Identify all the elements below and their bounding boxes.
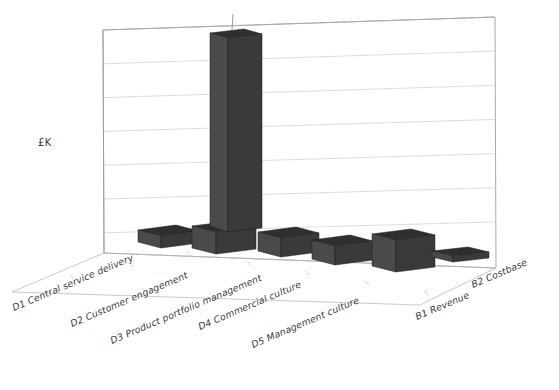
y-axis-title: £K bbox=[38, 137, 52, 148]
bar-b1-revenue bbox=[372, 229, 435, 272]
bar-d3-product-portfolio-management bbox=[210, 14, 262, 232]
bar-d5-management-culture bbox=[312, 235, 373, 265]
chart-container: £K D1 Central service delivery D2 Custom… bbox=[0, 0, 559, 390]
bar-d4-commercial-culture bbox=[258, 227, 319, 257]
bar-chart-3d: £K D1 Central service delivery D2 Custom… bbox=[0, 0, 559, 390]
